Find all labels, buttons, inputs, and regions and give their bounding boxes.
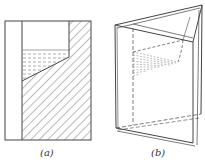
panel-a-label: (a) — [40, 147, 54, 158]
panel-a-drawing — [5, 21, 91, 140]
panel-b-label: (b) — [151, 147, 165, 158]
figure-canvas — [0, 0, 205, 165]
panel-b-drawing — [115, 5, 202, 146]
